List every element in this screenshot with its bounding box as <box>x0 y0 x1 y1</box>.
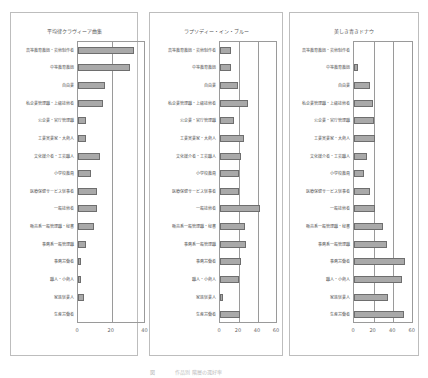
bar <box>78 223 94 230</box>
bar <box>78 64 130 71</box>
bar <box>78 294 84 301</box>
x-tick-label: 40 <box>254 327 260 333</box>
bar <box>220 241 246 248</box>
bar <box>220 117 234 124</box>
x-tick-label: 40 <box>141 327 147 333</box>
category-label: 医療保健サービス従事者 <box>4 188 74 194</box>
category-label: 医療保健サービス従事者 <box>146 188 216 194</box>
bar <box>354 135 375 142</box>
bar <box>354 82 370 89</box>
bar <box>78 258 81 265</box>
gridline <box>112 42 113 322</box>
figure-caption: 図 作品別 階層の選好率 <box>150 368 222 375</box>
bar <box>220 100 248 107</box>
category-label: 生産労働者 <box>146 311 216 317</box>
bar <box>354 205 375 212</box>
plot-area <box>219 41 277 323</box>
chart-title: 平均律クラヴィーア曲集 <box>11 27 137 34</box>
bar <box>220 64 231 71</box>
bar <box>354 153 367 160</box>
category-label: 高等教育教師・芸術制作者 <box>4 47 74 53</box>
bar <box>78 276 81 283</box>
category-label: 中等教育教師 <box>4 64 74 70</box>
chart-panel-3: 美しき青きドナウ0204060高等教育教師・芸術制作者中等教育教師自由業私企業管… <box>289 12 419 356</box>
category-label: 一般技術者 <box>280 205 350 211</box>
category-label: 中等教育教師 <box>146 64 216 70</box>
bar <box>354 64 358 71</box>
bar <box>78 117 86 124</box>
bar <box>220 205 260 212</box>
bar <box>78 188 97 195</box>
bar <box>78 170 91 177</box>
category-label: 家族従業人 <box>146 294 216 300</box>
bar <box>354 117 374 124</box>
bar <box>78 100 103 107</box>
bar <box>220 276 239 283</box>
category-label: 販売系一般管理職・秘書 <box>280 223 350 229</box>
x-tick-label: 60 <box>273 327 279 333</box>
category-label: 公企業・官庁管理職 <box>280 117 350 123</box>
category-label: 職人・小商人 <box>280 276 350 282</box>
category-label: 私企業管理職・上級技術者 <box>4 100 74 106</box>
chart-panel-2: ラプソディー・イン・ブルー0204060高等教育教師・芸術制作者中等教育教師自由… <box>149 12 283 356</box>
category-label: 中等教育教師 <box>280 64 350 70</box>
bar <box>78 47 134 54</box>
bar <box>354 276 402 283</box>
category-label: 一般技術者 <box>4 205 74 211</box>
bar <box>354 188 370 195</box>
category-label: 家族従業人 <box>4 294 74 300</box>
category-label: 事務系一般管理職 <box>280 241 350 247</box>
category-label: 職人・小商人 <box>146 276 216 282</box>
category-label: 事務系一般管理職 <box>146 241 216 247</box>
x-tick-label: 40 <box>389 327 395 333</box>
bar <box>78 82 105 89</box>
category-label: 家族従業人 <box>280 294 350 300</box>
bar <box>354 294 388 301</box>
bar <box>78 205 97 212</box>
x-tick-label: 20 <box>235 327 241 333</box>
x-tick-label: 20 <box>108 327 114 333</box>
bar <box>220 311 240 318</box>
x-tick-label: 20 <box>369 327 375 333</box>
category-label: 事務労働者 <box>4 258 74 264</box>
category-label: 公企業・官庁管理職 <box>4 117 74 123</box>
x-tick-label: 0 <box>75 327 78 333</box>
category-label: 販売系一般管理職・秘書 <box>4 223 74 229</box>
bar <box>354 223 383 230</box>
bar <box>354 258 405 265</box>
plot-area <box>77 41 145 323</box>
chart-title: 美しき青きドナウ <box>290 27 418 34</box>
bar <box>220 258 241 265</box>
bar <box>78 153 100 160</box>
category-label: 事務系一般管理職 <box>4 241 74 247</box>
bar <box>78 135 86 142</box>
category-label: 職人・小商人 <box>4 276 74 282</box>
bar <box>220 170 239 177</box>
bar <box>354 241 387 248</box>
category-label: 私企業管理職・上級技術者 <box>280 100 350 106</box>
bar <box>220 223 245 230</box>
category-label: 生産労働者 <box>4 311 74 317</box>
category-label: 自由業 <box>280 82 350 88</box>
category-label: 工業実業家・大商人 <box>146 135 216 141</box>
category-label: 公企業・官庁管理職 <box>146 117 216 123</box>
category-label: 小学校教員 <box>280 170 350 176</box>
bar <box>220 294 223 301</box>
category-label: 販売系一般管理職・秘書 <box>146 223 216 229</box>
x-tick-label: 0 <box>351 327 354 333</box>
category-label: 高等教育教師・芸術制作者 <box>280 47 350 53</box>
bar <box>354 170 364 177</box>
category-label: 自由業 <box>146 82 216 88</box>
bar <box>354 100 373 107</box>
chart-panel-1: 平均律クラヴィーア曲集02040高等教育教師・芸術制作者中等教育教師自由業私企業… <box>10 12 138 356</box>
bar <box>78 241 86 248</box>
category-label: 工業実業家・大商人 <box>280 135 350 141</box>
bar <box>220 47 231 54</box>
category-label: 文化媒介者・工芸職人 <box>146 153 216 159</box>
x-tick-label: 60 <box>409 327 415 333</box>
bar <box>220 82 238 89</box>
chart-title: ラプソディー・イン・ブルー <box>150 27 282 34</box>
plot-area <box>353 41 413 323</box>
category-label: 事務労働者 <box>280 258 350 264</box>
category-label: 高等教育教師・芸術制作者 <box>146 47 216 53</box>
